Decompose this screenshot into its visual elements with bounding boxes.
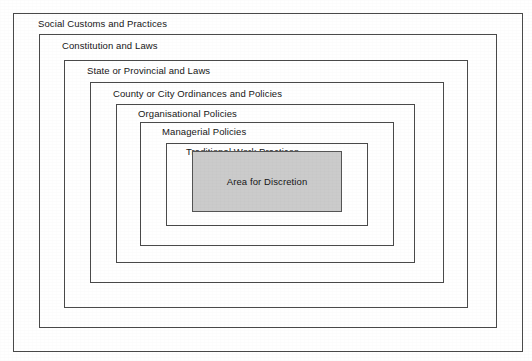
- label-area-for-discretion: Area for Discretion: [192, 176, 342, 187]
- label-county-or-city-ordinances-and-policies: County or City Ordinances and Policies: [113, 88, 282, 99]
- label-state-or-provincial-and-laws: State or Provincial and Laws: [87, 65, 210, 76]
- label-social-customs-and-practices: Social Customs and Practices: [38, 18, 167, 29]
- label-organisational-policies: Organisational Policies: [138, 108, 237, 119]
- label-constitution-and-laws: Constitution and Laws: [62, 40, 158, 51]
- label-managerial-policies: Managerial Policies: [162, 126, 246, 137]
- nested-boxes-diagram: Social Customs and PracticesConstitution…: [0, 0, 532, 361]
